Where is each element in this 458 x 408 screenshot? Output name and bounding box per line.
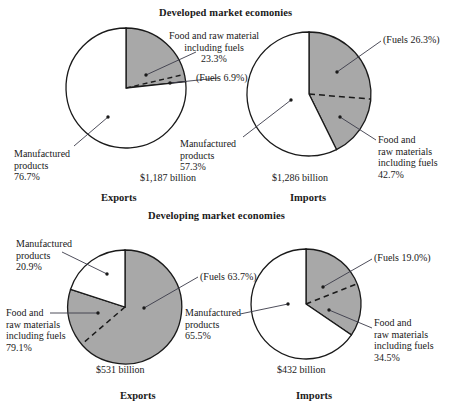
leader-fuels-developing-exports: [144, 277, 198, 308]
annotation-manufactured-developed-exports: Manufactured products 76.7%: [14, 148, 70, 183]
annotation-manufactured-developing-imports: Manufactured products 65.5%: [185, 307, 241, 342]
slice-food-raw-materials-developed-imports: [309, 32, 371, 150]
total-developed-exports: $1,187 billion: [140, 172, 196, 183]
dashed-fuels-marker-developed-imports: [309, 94, 371, 99]
annotation-food-developing-imports: Food and raw materials including fuels 3…: [374, 317, 434, 363]
total-developing-imports: $432 billion: [277, 364, 326, 375]
slice-food-raw-materials-developing-exports: [68, 250, 182, 364]
panel-label-exports-developed: Exports: [101, 192, 137, 203]
leader-manufactured-developed-imports: [243, 100, 291, 137]
dashed-fuels-marker-developing-exports: [82, 307, 125, 344]
title-developed-market-economies: Developed market ecomonies: [159, 7, 292, 18]
slice-manufactured-products-developing-exports: [71, 250, 125, 307]
leader-manufactured-developed-exports: [74, 117, 108, 146]
annotation-food-developed-imports: Food and raw materials including fuels 4…: [378, 134, 438, 180]
panel-label-exports-developing: Exports: [120, 390, 156, 401]
annotation-manufactured-developing-exports: Manufactured products 20.9%: [16, 238, 72, 273]
leader-food-developing-imports: [329, 310, 372, 328]
annotation-food-developed-exports: Food and raw material including fuels 23…: [150, 30, 278, 65]
total-developing-exports: $531 billion: [96, 364, 145, 375]
dashed-fuels-marker-developing-imports: [306, 284, 357, 304]
pie-chart-figure: Developed market ecomonies Developing ma…: [0, 0, 458, 408]
dashed-fuels-marker-developed-exports: [126, 74, 184, 88]
pie-developing-imports: [240, 249, 372, 359]
total-developed-imports: $1,286 billion: [272, 172, 328, 183]
annotation-food-developing-exports: Food and raw materials including fuels 7…: [6, 307, 66, 353]
annotation-fuels-developing-imports: (Fuels 19.0%): [374, 252, 431, 264]
slice-manufactured-products-developing-imports: [251, 249, 351, 359]
panel-label-imports-developing: Imports: [296, 390, 332, 401]
slice-food-raw-materials-developing-imports: [306, 249, 361, 335]
annotation-manufactured-developed-imports: Manufactured products 57.3%: [180, 138, 236, 173]
leader-fuels-developed-imports: [337, 41, 381, 72]
leader-food-developed-imports: [340, 117, 376, 140]
panel-label-imports-developed: Imports: [290, 192, 326, 203]
pie-developing-exports: [50, 250, 198, 364]
leader-fuels-developing-imports: [323, 259, 372, 287]
annotation-fuels-developing-exports: (Fuels 63.7%): [200, 271, 257, 283]
title-developing-market-economies: Developing market economies: [148, 210, 285, 221]
leader-manufactured-developing-imports: [240, 304, 288, 314]
annotation-fuels-developed-exports: (Fuels 6.9%): [196, 72, 248, 84]
annotation-fuels-developed-imports: (Fuels 26.3%): [383, 34, 440, 46]
